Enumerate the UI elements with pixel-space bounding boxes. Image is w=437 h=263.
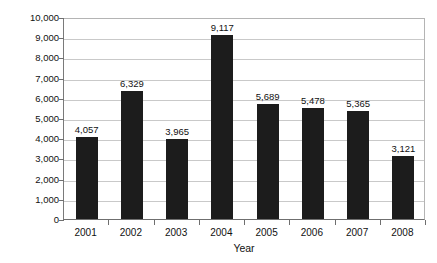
y-axis-tick-label: 6,000 bbox=[14, 94, 59, 104]
y-axis-tick-label: 3,000 bbox=[14, 154, 59, 164]
x-axis-title: Year bbox=[63, 242, 425, 254]
bar bbox=[257, 104, 279, 219]
bar-value-label: 6,329 bbox=[120, 79, 144, 89]
x-axis-tick-mark bbox=[154, 220, 155, 225]
bar bbox=[76, 137, 98, 219]
y-axis-tick-label: 8,000 bbox=[14, 53, 59, 63]
y-axis-tick-mark bbox=[59, 119, 64, 120]
y-axis-tick-label: 1,000 bbox=[14, 195, 59, 205]
x-axis-tick-mark bbox=[335, 220, 336, 225]
plot-area: 4,0576,3293,9659,1175,6895,4785,3653,121 bbox=[63, 18, 425, 220]
y-axis-tick-mark bbox=[59, 58, 64, 59]
x-axis-tick-label: 2006 bbox=[289, 227, 335, 239]
x-axis-tick-mark bbox=[108, 220, 109, 225]
bar-value-label: 3,121 bbox=[391, 144, 415, 154]
y-axis-tick-label: 5,000 bbox=[14, 114, 59, 124]
y-axis-tick-labels: 10,0009,0008,0007,0006,0005,0004,0003,00… bbox=[14, 18, 59, 220]
y-axis-tick-label: 2,000 bbox=[14, 175, 59, 185]
bar-group: 3,965 bbox=[155, 19, 200, 219]
y-axis-tick-label: 7,000 bbox=[14, 74, 59, 84]
y-axis-tick-mark bbox=[59, 139, 64, 140]
bar-value-label: 9,117 bbox=[211, 23, 234, 33]
bar-group: 5,365 bbox=[336, 19, 381, 219]
bar bbox=[211, 35, 233, 219]
y-axis-tick-label: 4,000 bbox=[14, 134, 59, 144]
bars-layer: 4,0576,3293,9659,1175,6895,4785,3653,121 bbox=[64, 19, 424, 219]
x-axis-tick-label: 2002 bbox=[108, 227, 154, 239]
bar-value-label: 5,689 bbox=[256, 92, 280, 102]
x-axis-tick-label: 2005 bbox=[244, 227, 290, 239]
y-axis-tick-label: 0 bbox=[14, 215, 59, 225]
bar-chart: Number of Children 10,0009,0008,0007,000… bbox=[0, 0, 437, 263]
y-axis-tick-mark bbox=[59, 99, 64, 100]
x-axis-tick-mark bbox=[425, 220, 426, 225]
bar-value-label: 3,965 bbox=[165, 127, 189, 137]
y-axis-tick-mark bbox=[59, 200, 64, 201]
bar-group: 5,689 bbox=[245, 19, 290, 219]
x-axis-tick-label: 2007 bbox=[334, 227, 380, 239]
x-axis-tick-mark bbox=[289, 220, 290, 225]
bar-value-label: 5,365 bbox=[346, 99, 370, 109]
bar bbox=[347, 111, 369, 219]
x-axis-tick-label: 2001 bbox=[63, 227, 109, 239]
bar-group: 6,329 bbox=[109, 19, 154, 219]
bar bbox=[166, 139, 188, 219]
bar bbox=[302, 108, 324, 219]
y-axis-tick-mark bbox=[59, 180, 64, 181]
y-axis-tick-mark bbox=[59, 220, 64, 221]
x-axis-tick-label: 2003 bbox=[153, 227, 199, 239]
bar-group: 4,057 bbox=[64, 19, 109, 219]
y-axis-tick-mark bbox=[59, 159, 64, 160]
y-axis-tick-label: 10,000 bbox=[14, 13, 59, 23]
bar bbox=[121, 91, 143, 219]
bar-group: 5,478 bbox=[290, 19, 335, 219]
bar-value-label: 5,478 bbox=[301, 96, 325, 106]
bar bbox=[392, 156, 414, 219]
x-axis-tick-mark bbox=[380, 220, 381, 225]
x-axis-tick-mark bbox=[244, 220, 245, 225]
y-axis-tick-mark bbox=[59, 79, 64, 80]
y-axis-tick-mark bbox=[59, 38, 64, 39]
y-axis-tick-mark bbox=[59, 18, 64, 19]
bar-value-label: 4,057 bbox=[75, 125, 99, 135]
y-axis-tick-label: 9,000 bbox=[14, 33, 59, 43]
x-axis-tick-label: 2004 bbox=[198, 227, 244, 239]
bar-group: 3,121 bbox=[381, 19, 426, 219]
bar-group: 9,117 bbox=[200, 19, 245, 219]
x-axis-tick-mark bbox=[199, 220, 200, 225]
x-axis-tick-label: 2008 bbox=[379, 227, 425, 239]
